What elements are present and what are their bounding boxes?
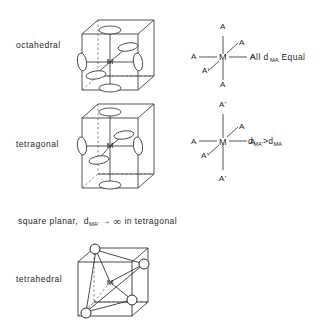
tetragonal-atom-left: A [191,137,197,146]
octahedral-note-subscript: MA [270,57,279,63]
tetrahedral-vertex-3 [127,295,137,305]
tetrahedral-vertex-1 [90,244,100,254]
octahedral-note-tail: Equal [281,52,305,62]
square-planar-subscript: MA' [89,221,99,227]
octahedral-star-center-atom: M [219,52,227,62]
diagram-page: octahedral [0,0,327,329]
tetrahedral-row-label: tetrahedral [16,274,62,284]
octahedral-cube-figure: M [76,16,160,100]
octahedral-cube-center-atom: M [107,57,114,66]
octahedral-atom-upper-right: A [239,38,245,47]
octahedral-atom-bottom: A [220,80,226,89]
square-planar-tail: in tetragonal [124,216,177,226]
tetragonal-cube-figure: M [76,100,160,196]
tetragonal-note-subscript-2: MA [274,141,283,147]
octahedral-note-lead: All d [250,52,269,62]
tetragonal-note-lead-2: d [268,136,273,146]
square-planar-note: square planar, dMA' → ∞ in tetragonal [18,215,177,227]
square-planar-arrow-icon: → [102,216,111,226]
octahedral-atom-top: A [220,22,226,31]
tetragonal-atom-bottom: A' [219,174,226,183]
tetragonal-note-subscript-1: MA' [253,141,263,147]
tetrahedral-vertex-4 [81,308,91,318]
tetragonal-cube-center-atom: M [107,141,114,150]
tetragonal-atom-top: A' [219,100,226,109]
octahedral-atom-left: A [191,52,197,61]
octahedral-atom-lower-left: A' [202,66,209,75]
infinity-symbol: ∞ [113,215,121,227]
tetragonal-atom-upper-right: A [239,122,245,131]
square-planar-lead: square planar, [18,216,78,226]
tetragonal-star-center-atom: M [219,137,227,147]
octahedral-cube-svg: M [76,16,160,100]
tetragonal-row-label: tetragonal [16,139,59,149]
tetrahedral-cube-svg: M [70,242,156,326]
tetrahedral-cube-figure: M [70,242,156,326]
tetragonal-relation-note: dMA'>dMA [248,136,282,146]
tetragonal-atom-lower-left: A' [201,151,208,160]
tetragonal-cube-svg: M [76,100,160,196]
tetrahedral-center-atom: M [107,278,114,287]
tetrahedral-vertex-2 [139,259,149,269]
octahedral-row-label: octahedral [16,40,61,50]
octahedral-relation-note: All d MA Equal [250,52,305,62]
